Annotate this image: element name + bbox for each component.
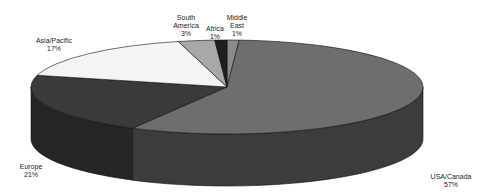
label-asia-pacific: Asia/Pacific 17% xyxy=(36,37,72,53)
label-middle-east: Middle East 1% xyxy=(227,14,248,38)
pie-tops xyxy=(31,40,423,134)
label-europe: Europe 21% xyxy=(20,163,43,179)
label-south-america: South America 3% xyxy=(173,14,199,38)
label-usa-canada: USA/Canada 57% xyxy=(431,173,472,189)
label-africa: Africa 1% xyxy=(206,25,224,41)
